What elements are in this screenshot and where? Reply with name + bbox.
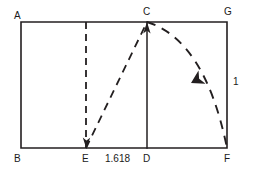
dashed-diagonal-line-ec: [86, 22, 147, 148]
vertex-label-d: D: [143, 154, 150, 164]
vertex-label-g: G: [224, 7, 232, 17]
vertex-label-a: A: [14, 11, 21, 21]
figure-canvas: [0, 0, 257, 174]
height-measurement-label: 1: [233, 77, 239, 87]
vertex-label-e: E: [82, 154, 89, 164]
vertex-label-f: F: [224, 154, 230, 164]
arrowhead-on-arc: [187, 71, 205, 90]
geometry-figure: A B C D E F G 1.618 1: [0, 0, 257, 174]
outer-rectangle: [21, 22, 227, 148]
dashed-arc-cf: [147, 22, 227, 148]
vertex-label-c: C: [143, 7, 150, 17]
vertex-label-b: B: [14, 154, 21, 164]
width-measurement-label: 1.618: [105, 154, 130, 164]
